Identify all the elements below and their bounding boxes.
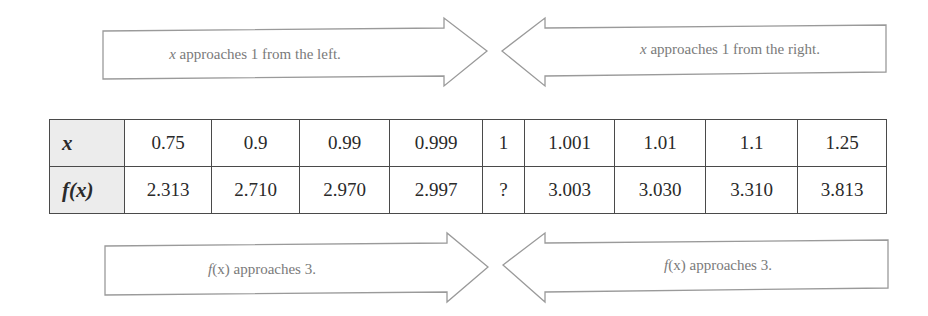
table-cell: 0.99	[300, 120, 390, 167]
table-cell: 1	[483, 120, 525, 167]
table-row-fx: f(x) 2.313 2.710 2.970 2.997 ? 3.003 3.0…	[50, 167, 887, 214]
table-cell: 2.313	[125, 167, 212, 214]
table-cell: 2.997	[390, 167, 483, 214]
table-cell: 3.310	[706, 167, 798, 214]
table-cell: 0.75	[125, 120, 212, 167]
table-cell: 1.01	[615, 120, 706, 167]
label-left-approach: x approaches 1 from the left.	[169, 46, 341, 63]
table-cell: 0.9	[212, 120, 300, 167]
table-cell: 3.003	[525, 167, 615, 214]
table-cell: ?	[483, 167, 525, 214]
table-cell: 3.030	[615, 167, 706, 214]
table-cell: 1.1	[706, 120, 798, 167]
table-row-x: x 0.75 0.9 0.99 0.999 1 1.001 1.01 1.1 1…	[50, 120, 887, 167]
table-cell: 0.999	[390, 120, 483, 167]
label-right-approach: x approaches 1 from the right.	[640, 41, 820, 58]
table-cell: 3.813	[798, 167, 887, 214]
table-cell: 1.25	[798, 120, 887, 167]
table-cell: 2.710	[212, 167, 300, 214]
table-cell: 2.970	[300, 167, 390, 214]
label-right-fx: f(x) approaches 3.	[664, 257, 772, 274]
row-header-fx: f(x)	[50, 167, 125, 214]
values-table: x 0.75 0.9 0.99 0.999 1 1.001 1.01 1.1 1…	[49, 119, 887, 214]
label-left-fx: f(x) approaches 3.	[208, 261, 316, 278]
table-cell: 1.001	[525, 120, 615, 167]
row-header-x: x	[50, 120, 125, 167]
